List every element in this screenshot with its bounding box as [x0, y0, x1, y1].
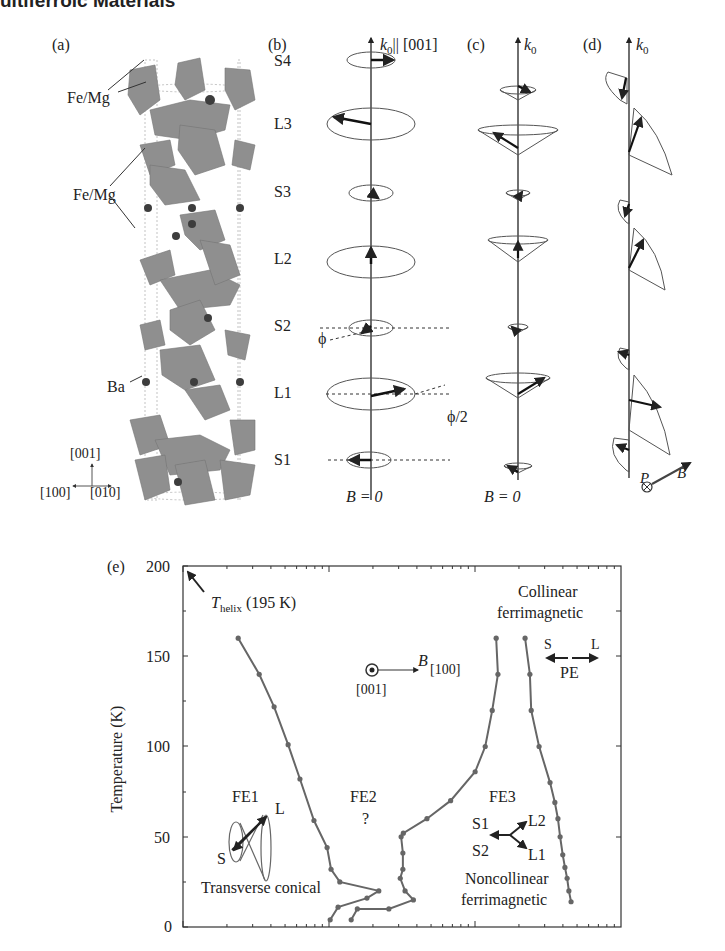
- data-point: [490, 708, 495, 713]
- l1-label: L1: [528, 846, 546, 864]
- data-point: [335, 905, 340, 910]
- noncollinear-arrows: [491, 822, 526, 848]
- transverse-conical-icon: [229, 815, 271, 881]
- data-point: [297, 776, 302, 781]
- data-point: [328, 867, 333, 872]
- data-point: [349, 917, 354, 922]
- data-point: [328, 917, 333, 922]
- data-point: [400, 867, 405, 872]
- data-point: [364, 896, 369, 901]
- y-tick-0: 0: [164, 918, 172, 936]
- collinear-label-2: ferrimagnetic: [497, 604, 583, 622]
- collinear-label-1: Collinear: [518, 583, 578, 601]
- crystal-structure: [128, 58, 255, 505]
- phase-boundary-line: [238, 638, 379, 920]
- pe-label: PE: [560, 664, 579, 682]
- data-point: [337, 879, 342, 884]
- field-direction-icon: [366, 664, 418, 676]
- fe1-s-label: S: [217, 850, 226, 868]
- data-point: [566, 888, 571, 893]
- data-point: [565, 876, 570, 881]
- data-point: [236, 636, 241, 641]
- noncollinear-label-1: Noncollinear: [465, 870, 549, 888]
- fe1-label: FE1: [232, 788, 259, 806]
- collinear-l-label: L: [591, 637, 600, 653]
- data-point: [558, 834, 563, 839]
- data-point: [311, 818, 316, 823]
- noncollinear-label-2: ferrimagnetic: [461, 891, 547, 909]
- b-field-label: B: [418, 652, 428, 670]
- data-point: [522, 636, 527, 641]
- spiral-layers-c: [478, 38, 558, 480]
- data-point: [494, 636, 499, 641]
- data-point: [400, 850, 405, 855]
- data-point: [555, 816, 560, 821]
- fe1-l-label: L: [275, 800, 285, 818]
- data-point: [399, 834, 404, 839]
- axes-triad: [73, 464, 111, 486]
- data-point: [402, 888, 407, 893]
- thelix-value: (195 K): [242, 594, 296, 611]
- y-tick-50: 50: [154, 829, 170, 847]
- data-point: [272, 704, 277, 709]
- data-point: [257, 672, 262, 677]
- data-point: [424, 816, 429, 821]
- fe2-question: ?: [362, 810, 369, 828]
- data-point: [527, 672, 532, 677]
- data-point: [529, 708, 534, 713]
- data-point: [411, 897, 416, 902]
- data-point: [473, 769, 478, 774]
- data-point: [547, 780, 552, 785]
- thelix-t: T: [211, 594, 220, 611]
- data-point: [355, 906, 360, 911]
- data-point: [568, 899, 573, 904]
- data-point: [495, 672, 500, 677]
- data-point: [286, 742, 291, 747]
- thelix-sub: helix: [220, 602, 242, 614]
- data-point: [562, 865, 567, 870]
- s1-label: S1: [472, 815, 489, 833]
- data-point: [483, 744, 488, 749]
- thelix-label: Thelix (195 K): [211, 594, 296, 614]
- data-point: [398, 876, 403, 881]
- y-axis-label: Temperature (K): [108, 694, 126, 824]
- panel-e-label: (e): [107, 558, 125, 576]
- data-point: [376, 888, 381, 893]
- transverse-conical-label: Transverse conical: [201, 879, 321, 897]
- data-point: [386, 906, 391, 911]
- fe2-label: FE2: [350, 788, 377, 806]
- data-point: [448, 798, 453, 803]
- thelix-arrow: [188, 572, 204, 592]
- data-point: [536, 744, 541, 749]
- collinear-s-label: S: [544, 637, 552, 653]
- y-tick-200: 200: [146, 558, 170, 576]
- data-point: [325, 845, 330, 850]
- data-point: [560, 852, 565, 857]
- spiral-layers-b: [320, 38, 450, 500]
- y-tick-100: 100: [146, 738, 170, 756]
- y-tick-150: 150: [146, 648, 170, 666]
- spiral-layers-d: [606, 38, 690, 492]
- b-direction-label: [100]: [430, 662, 460, 678]
- fe3-label: FE3: [489, 788, 516, 806]
- s2-label: S2: [472, 842, 489, 860]
- n001-label: [001]: [356, 682, 386, 698]
- data-point: [552, 800, 557, 805]
- l2-label: L2: [528, 812, 546, 830]
